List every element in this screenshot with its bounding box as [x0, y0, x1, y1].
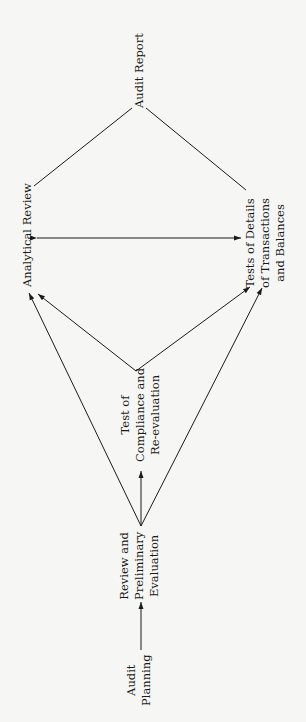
node-audit-planning: Audit Planning [124, 654, 154, 706]
node-label: Preliminary [132, 532, 147, 600]
node-label: Analytical Review [20, 183, 35, 287]
node-label: Tests of Details [243, 198, 258, 288]
node-label: Re-evaluation [148, 368, 163, 462]
node-label: Compliance and [133, 368, 148, 462]
node-label: Test of [118, 368, 133, 462]
node-label: Audit Report [132, 33, 147, 108]
edge-details-to-report [146, 108, 246, 190]
edge-compliance-to-analytical [38, 294, 136, 371]
node-analytical-review: Analytical Review [20, 183, 35, 287]
node-label: Planning [139, 654, 154, 706]
edge-analytical-to-report [34, 108, 132, 186]
node-audit-report: Audit Report [132, 33, 147, 108]
node-label: Audit [124, 654, 139, 706]
node-label: Evaluation [147, 532, 162, 600]
node-tests-of-details: Tests of Details of Transactions and Bal… [243, 198, 288, 288]
node-review-preliminary: Review and Preliminary Evaluation [117, 532, 162, 600]
edge-compliance-to-details [136, 287, 250, 371]
node-label: of Transactions [258, 198, 273, 288]
node-test-of-compliance: Test of Compliance and Re-evaluation [118, 368, 163, 462]
node-label: and Balances [273, 198, 288, 288]
diagram-edges [0, 0, 306, 722]
node-label: Review and [117, 532, 132, 600]
